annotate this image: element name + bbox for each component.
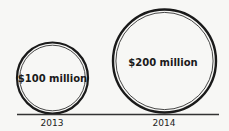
bubble-label-2013: $100 million bbox=[18, 73, 87, 84]
x-tick-2013: 2013 bbox=[41, 118, 64, 128]
bubble-2014: $200 million bbox=[113, 10, 216, 113]
x-tick-2014: 2014 bbox=[153, 118, 176, 128]
bubble-label-2014: $200 million bbox=[128, 57, 197, 68]
bubble-2013: $100 million bbox=[17, 43, 88, 114]
bubble-chart: $100 million $200 million 2013 2014 bbox=[0, 0, 229, 131]
